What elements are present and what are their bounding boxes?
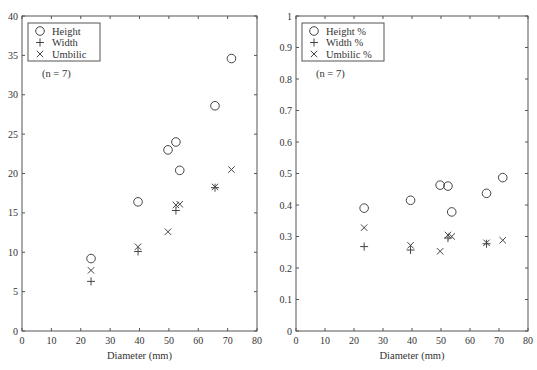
legend-entry: Width % [326,37,363,48]
series-height [87,54,236,263]
x-tick-label: 50 [436,335,446,346]
data-point-circle-marker [447,208,456,217]
data-point-circle-marker [87,254,96,263]
sample-size-annotation: (n = 7) [42,68,71,80]
x-tick-label: 20 [76,335,86,346]
data-point-circle-marker [406,196,415,205]
data-point-cross-marker [88,267,94,273]
data-point-plus-marker [87,277,95,285]
x-tick-label: 60 [193,335,203,346]
data-point-circle-marker [211,101,220,110]
legend-entry: Umbilic % [326,49,372,60]
y-tick-label: 0.4 [280,200,293,211]
x-axis-label: Diameter (mm) [379,350,445,362]
x-tick-label: 40 [407,335,417,346]
x-tick-label: 80 [523,335,533,346]
x-tick-label: 60 [465,335,475,346]
x-tick-label: 70 [223,335,233,346]
data-point-circle-marker [172,138,181,147]
y-tick-label: 40 [8,11,18,22]
x-tick-label: 10 [46,335,56,346]
sample-size-annotation: (n = 7) [316,68,345,80]
legend: HeightWidthUmbilic [28,23,100,61]
x-tick-label: 0 [20,335,25,346]
y-tick-label: 0.3 [280,231,293,242]
y-tick-label: 0.5 [280,168,293,179]
x-tick-label: 20 [349,335,359,346]
y-tick-label: 0 [287,326,292,337]
y-tick-label: 10 [8,247,18,258]
legend: Height %Width %Umbilic % [302,23,384,61]
x-tick-label: 70 [494,335,504,346]
y-tick-label: 35 [8,50,18,61]
legend-entry: Umbilic [52,49,87,60]
data-point-circle-marker [175,166,184,175]
x-tick-label: 30 [378,335,388,346]
y-tick-label: 20 [8,168,18,179]
data-point-circle-marker [164,146,173,155]
y-tick-label: 1 [287,11,292,22]
legend-entry: Height % [326,26,366,37]
x-axis-label: Diameter (mm) [107,350,173,362]
x-tick-label: 50 [164,335,174,346]
data-point-cross-marker [228,166,234,172]
data-point-circle-marker [134,198,143,207]
x-tick-label: 0 [294,335,299,346]
data-point-circle-marker [444,182,453,191]
x-tick-label: 40 [135,335,145,346]
y-tick-label: 15 [8,207,18,218]
data-point-plus-marker [360,243,368,251]
data-point-circle-marker [436,181,445,190]
data-point-plus-marker [134,247,142,255]
y-tick-label: 0.7 [280,105,293,116]
data-point-cross-marker [437,248,443,254]
series-width- [360,234,490,254]
x-tick-label: 10 [320,335,330,346]
y-tick-label: 0.1 [280,294,293,305]
y-tick-label: 0 [13,326,18,337]
plot-frame [296,16,528,331]
x-tick-label: 30 [105,335,115,346]
data-point-plus-marker [211,184,219,192]
data-point-circle-marker [498,173,507,182]
series-umbilic- [361,224,506,254]
y-tick-label: 0.2 [280,263,293,274]
data-point-plus-marker [407,246,415,254]
series-umbilic [88,166,235,273]
y-tick-label: 5 [13,286,18,297]
data-point-cross-marker [361,224,367,230]
series-height- [360,173,507,216]
series-width [87,184,219,286]
legend-entry: Width [52,37,79,48]
y-tick-label: 0.6 [280,137,293,148]
y-tick-label: 0.9 [280,42,293,53]
chart-percent-dimensions: 0102030405060708000.10.20.30.40.50.60.70… [280,11,534,363]
legend-entry: Height [52,26,81,37]
data-point-cross-marker [177,201,183,207]
y-tick-label: 0.8 [280,74,293,85]
data-point-circle-marker [360,204,369,213]
data-point-circle-marker [482,189,491,198]
data-point-plus-marker [483,240,491,248]
data-point-cross-marker [165,229,171,235]
y-tick-label: 30 [8,89,18,100]
x-tick-label: 80 [252,335,262,346]
y-tick-label: 25 [8,129,18,140]
chart-absolute-dimensions: 010203040506070800510152025303540Diamete… [8,11,262,363]
figure: 010203040506070800510152025303540Diamete… [0,0,537,370]
data-point-circle-marker [227,54,236,63]
plot-frame [22,16,257,331]
data-point-cross-marker [500,237,506,243]
